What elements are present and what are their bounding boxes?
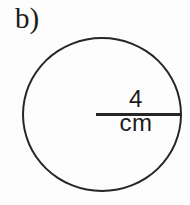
circle-diagram: b) 4 cm <box>0 0 190 205</box>
part-label: b) <box>15 1 39 36</box>
radius-label: 4 cm <box>110 87 162 135</box>
